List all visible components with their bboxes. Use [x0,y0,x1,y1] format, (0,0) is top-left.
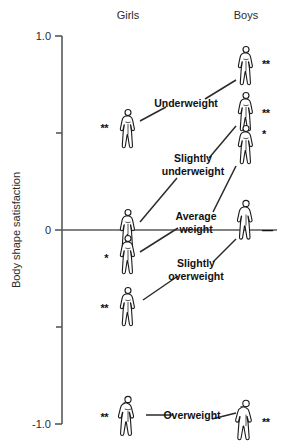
y-tick-label-1: 1.0 [36,30,51,42]
girls-point-underweight[interactable] [120,110,134,148]
boys-point-slightly-overweight[interactable] [237,200,252,239]
category-label-average-weight-line1: Average [175,210,216,222]
category-label-slightly-underweight-line2: underweight [162,165,225,177]
girls-sig-average-weight: * [104,252,109,264]
category-label-underweight: Underweight [154,97,218,109]
girls-point-slightly-overweight[interactable] [120,288,134,326]
category-label-slightly-overweight-line1: Slightly [177,257,215,269]
category-label-average-weight-line2: weight [178,223,213,235]
connector-underweight-left [140,107,166,121]
category-labels: Underweight Slightly underweight Average… [154,97,225,421]
connector-slightly-overweight-right [213,239,236,262]
boys-sig-slightly-overweight: — [262,224,273,236]
boys-sig-average-weight: * [262,128,267,140]
body-shape-satisfaction-chart: Girls Boys 1.0 0 -1.0 Body shape satisfa… [0,0,288,444]
boys-point-average-weight[interactable] [238,126,252,164]
connector-average-weight-left [140,228,178,252]
connector-slightly-underweight-left [140,178,177,222]
y-axis: 1.0 0 -1.0 [32,30,62,430]
boys-sig-overweight: ** [262,416,271,428]
category-label-slightly-underweight-line1: Slightly [174,152,212,164]
connector-lines [140,80,236,419]
category-label-slightly-overweight-line2: overweight [168,270,224,282]
chart-figure: Girls Boys 1.0 0 -1.0 Body shape satisfa… [0,0,288,444]
boys-sig-slightly-underweight: ** [262,107,271,119]
connector-slightly-underweight-right [209,126,236,158]
column-header-boys: Boys [234,9,259,21]
boys-point-underweight[interactable] [238,47,252,85]
boys-data-points [236,47,253,440]
column-header-girls: Girls [117,9,140,21]
girls-point-overweight[interactable] [118,396,133,435]
girls-sig-slightly-overweight: ** [100,302,109,314]
y-tick-label-0: 0 [45,224,51,236]
y-tick-label-neg1: -1.0 [32,418,51,430]
girls-data-points [118,110,134,436]
girls-sig-overweight: ** [100,411,109,423]
girls-sig-underweight: ** [100,122,109,134]
boys-point-overweight[interactable] [236,400,252,439]
boys-sig-underweight: ** [262,58,271,70]
boys-significance-markers: ** ** * — ** [262,58,273,428]
category-label-overweight: Overweight [163,409,221,421]
y-axis-title: Body shape satisfaction [10,172,22,288]
girls-significance-markers: ** * ** ** [100,122,109,423]
